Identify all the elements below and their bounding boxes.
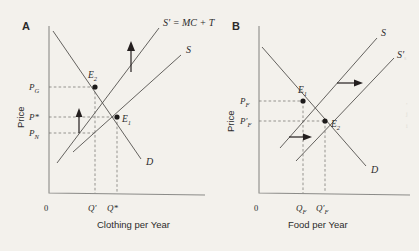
panel-a-axes <box>49 26 205 195</box>
svg-text:j: j <box>405 111 408 117</box>
panel-b-supply-shift-arrow-upper <box>337 79 363 86</box>
panel-a-price-tick-pg: PG <box>28 82 40 94</box>
panel-a-demand-label: D <box>145 156 154 167</box>
panel-b-demand-label: D <box>370 164 379 175</box>
panel-a-price-tick-pstar: P* <box>28 112 39 122</box>
panel-a-supply-shifted-curve <box>57 28 159 163</box>
panel-a-guide-lines <box>49 87 117 193</box>
panel-a-equilibrium-point-e2 <box>92 84 97 89</box>
panel-a-label-e1: E1 <box>121 114 131 126</box>
panel-b-supply-shifted-label: S′ <box>397 49 405 60</box>
panel-b-axes <box>259 26 410 195</box>
panel-b-label-e2: E2 <box>330 119 341 131</box>
panel-a-supply-label: S <box>186 44 191 55</box>
panel-a-quantity-tick-qstar: Q* <box>107 203 118 213</box>
panel-a-x-axis-title: Clothing per Year <box>97 219 170 230</box>
panel-a-y-axis-title: Price <box>15 106 26 128</box>
panel-b-guide-lines <box>259 101 325 193</box>
panel-b-price-tick-pf: PF <box>239 96 251 108</box>
panel-b-origin-label: 0 <box>254 203 258 213</box>
panel-a-label-e2: E2 <box>87 70 98 82</box>
panel-b-letter: B <box>232 20 240 32</box>
panel-a-supply-shift-arrow <box>127 41 135 72</box>
svg-text:,: , <box>406 99 408 105</box>
panel-b-equilibrium-point-e2 <box>322 118 327 123</box>
panel-b-label-e1: E1 <box>297 85 307 97</box>
panel-a-quantity-tick-qprime: Q′ <box>88 203 97 213</box>
svg-text:s: s <box>404 55 407 61</box>
economics-supply-demand-figure: s , j i A E2 E1 <box>0 0 419 251</box>
panel-b-price-tick-pf-prime: P′F <box>239 116 252 128</box>
panel-a-supply-shifted-label: S′ = MC + T <box>163 17 216 28</box>
panel-b: B E1 E2 S S <box>225 20 410 230</box>
panel-b-equilibrium-point-e1 <box>300 98 305 103</box>
page-bleed-through: s , j i <box>404 55 408 129</box>
panel-b-supply-shifted-curve <box>296 58 394 161</box>
panel-b-demand-curve <box>262 47 366 166</box>
panel-b-quantity-tick-qf-prime: Q′F <box>316 203 329 215</box>
svg-text:i: i <box>406 123 408 129</box>
panel-b-supply-curve <box>280 38 377 148</box>
panel-a-letter: A <box>22 20 30 32</box>
panel-a-equilibrium-point-e1 <box>114 114 119 119</box>
panel-b-supply-label: S <box>381 27 386 38</box>
panel-b-quantity-tick-qf: QF <box>296 203 308 215</box>
panel-b-y-axis-title: Price <box>225 110 236 132</box>
panel-a-tax-wedge-arrow <box>76 108 83 133</box>
panel-a-price-tick-pn: PN <box>28 128 40 140</box>
panel-a-origin-label: 0 <box>44 203 48 213</box>
panel-a: A E2 E1 <box>15 17 216 230</box>
panel-b-x-axis-title: Food per Year <box>288 219 348 230</box>
